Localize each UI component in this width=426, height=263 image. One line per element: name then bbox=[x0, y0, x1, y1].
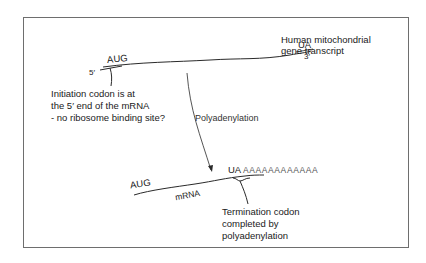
top-transcript-line bbox=[103, 51, 311, 67]
five-prime-label: 5′ bbox=[89, 68, 95, 77]
termination-note: Termination codon completed by polyadeny… bbox=[222, 206, 300, 242]
initiation-note: Initiation codon is at the 5′ end of the… bbox=[51, 88, 165, 124]
poly-a-tail: AAAAAAAAAAAA bbox=[243, 165, 318, 175]
polyadenylation-label: Polyadenylation bbox=[195, 113, 259, 123]
arrowhead-icon bbox=[208, 165, 213, 172]
transcript-title: Human mitochondrial gene transcript bbox=[281, 34, 371, 56]
top-start-codon: AUG bbox=[107, 52, 128, 65]
termination-codon-bracket bbox=[233, 178, 250, 204]
initiation-codon-bracket bbox=[100, 66, 122, 86]
bottom-stop-partial: UA bbox=[228, 164, 241, 175]
